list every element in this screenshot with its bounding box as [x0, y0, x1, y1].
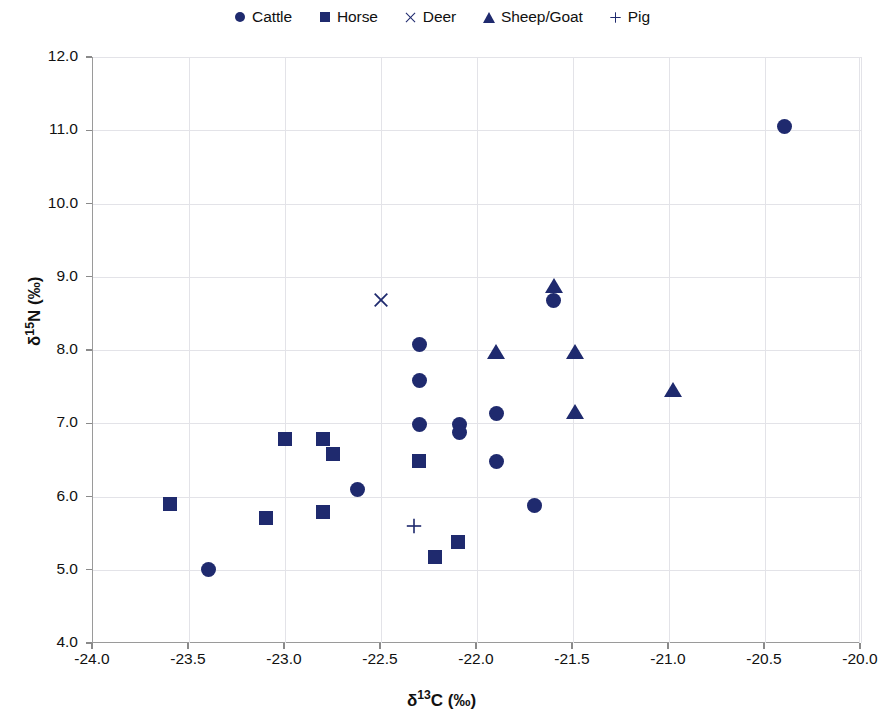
y-tick-label: 10.0: [18, 194, 78, 212]
gridline-vertical: [861, 57, 862, 643]
data-point-horse: [326, 447, 340, 461]
square-marker-icon: [320, 12, 330, 22]
y-tick-label: 5.0: [18, 560, 78, 578]
x-tick-mark: [187, 643, 188, 649]
y-tick-mark: [86, 423, 92, 424]
triangle-marker-icon: [483, 12, 495, 23]
data-point-deer: [372, 291, 390, 309]
gridline-vertical: [477, 57, 478, 643]
data-point-sheep-goat: [545, 278, 563, 293]
chart-legend: CattleHorseDeerSheep/GoatPig: [0, 6, 883, 28]
legend-marker-triangle-icon: [482, 10, 496, 24]
data-point-horse: [316, 505, 330, 519]
data-point-sheep-goat: [566, 344, 584, 359]
data-point-horse: [412, 454, 426, 468]
y-tick-label: 12.0: [18, 47, 78, 65]
data-point-cattle: [412, 417, 427, 432]
y-tick-mark: [86, 569, 92, 570]
legend-item-sheep-goat[interactable]: Sheep/Goat: [482, 9, 583, 25]
x-tick-mark: [379, 643, 380, 649]
cross-marker-icon: [404, 11, 417, 24]
data-point-horse: [428, 550, 442, 564]
legend-marker-cross-icon: [404, 10, 418, 24]
scatter-plot: CattleHorseDeerSheep/GoatPig δ15N (‰) 4.…: [0, 0, 883, 721]
x-tick-mark: [91, 643, 92, 649]
data-point-cattle: [546, 293, 561, 308]
x-tick-label: -22.0: [436, 650, 516, 668]
y-tick-label: 11.0: [18, 120, 78, 138]
data-point-horse: [451, 535, 465, 549]
x-axis-title: δ13C (‰): [0, 688, 883, 711]
y-tick-mark: [86, 56, 92, 57]
legend-marker-plus-icon: [609, 10, 623, 24]
plot-area: [92, 57, 860, 643]
data-point-sheep-goat: [664, 382, 682, 397]
y-tick-mark: [86, 130, 92, 131]
data-point-cattle: [412, 337, 427, 352]
x-tick-mark: [283, 643, 284, 649]
data-point-cattle: [777, 119, 792, 134]
x-tick-label: -21.0: [628, 650, 708, 668]
x-tick-label: -20.0: [820, 650, 883, 668]
x-tick-label: -22.5: [340, 650, 420, 668]
plus-marker-icon: [609, 11, 622, 24]
x-tick-label: -21.5: [532, 650, 612, 668]
y-tick-mark: [86, 203, 92, 204]
legend-label: Horse: [337, 9, 378, 25]
x-tick-mark: [667, 643, 668, 649]
data-point-cattle: [452, 425, 467, 440]
x-tick-label: -23.5: [148, 650, 228, 668]
data-point-horse: [278, 432, 292, 446]
gridline-vertical: [765, 57, 766, 643]
gridline-vertical: [381, 57, 382, 643]
legend-label: Sheep/Goat: [501, 9, 583, 25]
legend-item-pig[interactable]: Pig: [609, 9, 650, 25]
x-tick-label: -23.0: [244, 650, 324, 668]
x-tick-mark: [859, 643, 860, 649]
legend-item-horse[interactable]: Horse: [318, 9, 378, 25]
data-point-horse: [163, 497, 177, 511]
y-tick-mark: [86, 276, 92, 277]
y-tick-label: 4.0: [18, 633, 78, 651]
legend-label: Deer: [423, 9, 456, 25]
y-tick-label: 8.0: [18, 340, 78, 358]
x-tick-label: -20.5: [724, 650, 804, 668]
y-tick-label: 6.0: [18, 487, 78, 505]
x-tick-mark: [475, 643, 476, 649]
legend-label: Cattle: [252, 9, 292, 25]
gridline-vertical: [285, 57, 286, 643]
y-tick-label: 9.0: [18, 267, 78, 285]
data-point-cattle: [412, 373, 427, 388]
gridline-vertical: [669, 57, 670, 643]
data-point-pig: [405, 517, 423, 535]
x-tick-mark: [571, 643, 572, 649]
data-point-cattle: [489, 454, 504, 469]
y-axis-title: δ15N (‰): [23, 221, 46, 401]
circle-marker-icon: [235, 12, 245, 22]
legend-item-cattle[interactable]: Cattle: [233, 9, 292, 25]
data-point-cattle: [489, 406, 504, 421]
legend-label: Pig: [628, 9, 650, 25]
y-tick-label: 7.0: [18, 413, 78, 431]
data-point-cattle: [350, 482, 365, 497]
data-point-sheep-goat: [566, 404, 584, 419]
x-tick-mark: [763, 643, 764, 649]
data-point-cattle: [201, 562, 216, 577]
y-tick-mark: [86, 349, 92, 350]
legend-marker-circle-icon: [233, 10, 247, 24]
y-tick-mark: [86, 496, 92, 497]
data-point-cattle: [527, 498, 542, 513]
gridline-vertical: [189, 57, 190, 643]
legend-item-deer[interactable]: Deer: [404, 9, 456, 25]
data-point-horse: [316, 432, 330, 446]
x-tick-label: -24.0: [52, 650, 132, 668]
data-point-sheep-goat: [487, 344, 505, 359]
data-point-horse: [259, 511, 273, 525]
legend-marker-square-icon: [318, 10, 332, 24]
